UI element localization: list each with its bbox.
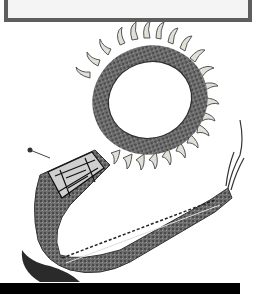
claw-necklace-photo bbox=[0, 0, 263, 294]
fringe bbox=[226, 120, 244, 190]
bottom-bar bbox=[0, 283, 240, 294]
